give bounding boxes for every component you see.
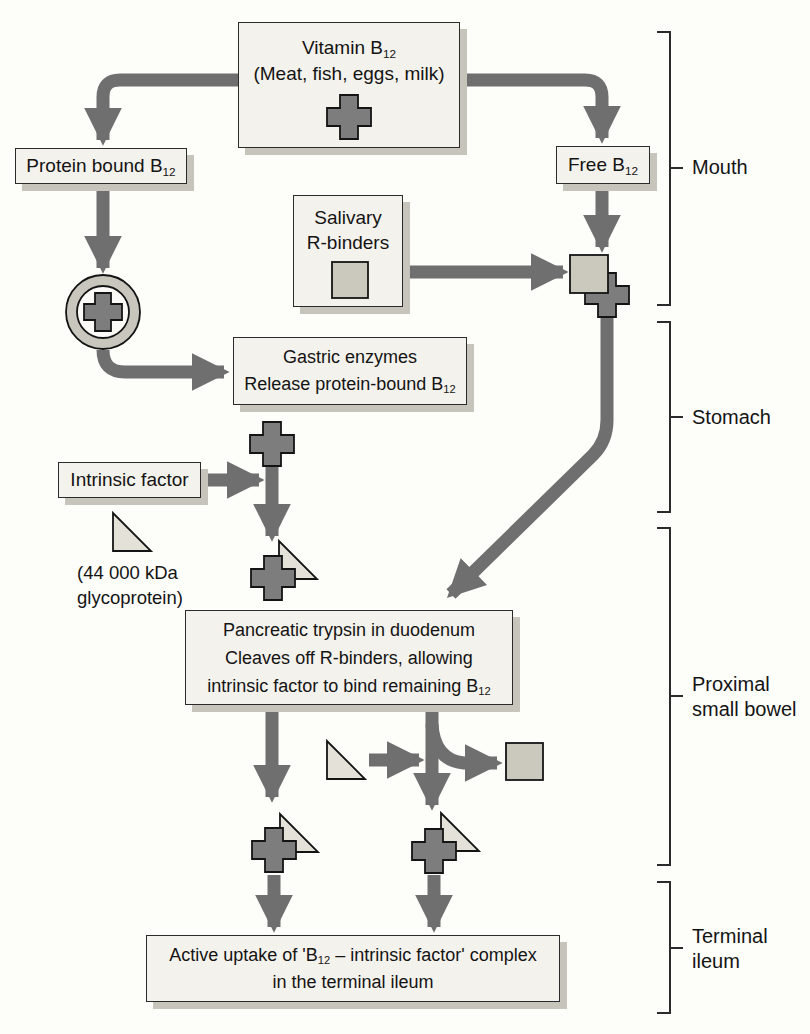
b12-if-complex-mid-icon [251, 541, 317, 600]
protein-ring-b12-icon [66, 275, 140, 349]
b12-cross-icon [327, 95, 371, 139]
freed-b12-cross-icon [250, 422, 294, 466]
free-intrinsic-factor-triangle-icon [327, 741, 365, 779]
bracket-stomach [657, 322, 683, 512]
bracket-mouth [657, 32, 683, 305]
b12-absorption-diagram: Vitamin B12 (Meat, fish, eggs, milk) Pro… [0, 0, 810, 1034]
bracket-proximal-small-bowel [657, 528, 683, 865]
bracket-terminal-ileum [657, 882, 683, 1013]
symbols-layer [0, 0, 810, 1034]
intrinsic-factor-triangle-icon [113, 513, 151, 551]
b12-if-complex-left-icon [252, 814, 318, 872]
b12-if-complex-right-icon [412, 813, 479, 873]
r-binder-square-icon [332, 262, 368, 298]
cleaved-r-binder-square-icon [506, 743, 543, 780]
b12-rbinder-complex-icon [570, 255, 629, 317]
